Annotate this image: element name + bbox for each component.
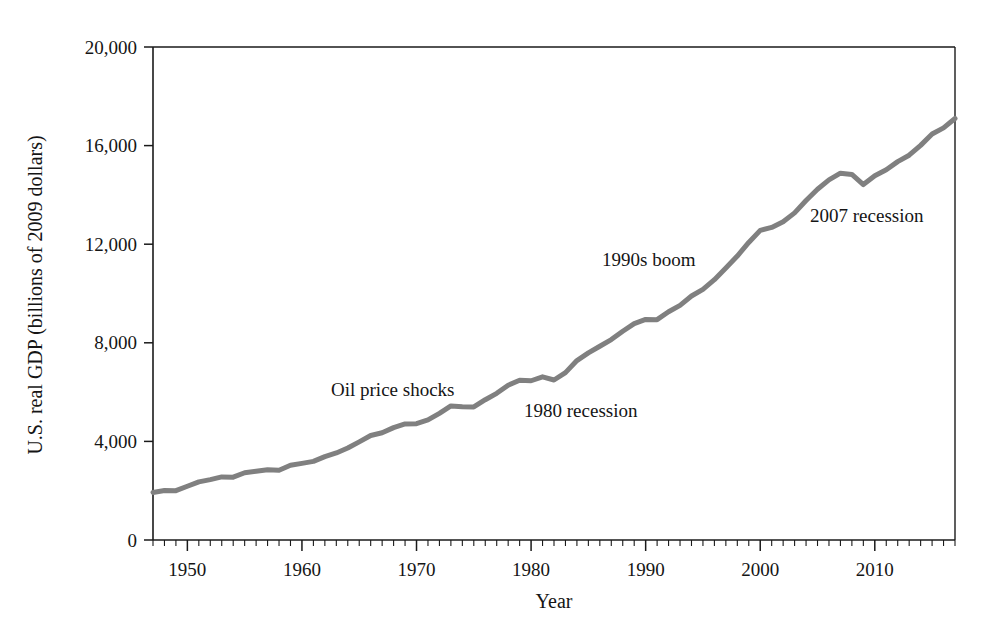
y-tick-label-16000: 16,000 bbox=[85, 135, 137, 156]
x-axis-title: Year bbox=[536, 590, 573, 612]
y-axis-title: U.S. real GDP (billions of 2009 dollars) bbox=[24, 135, 47, 454]
chart-figure: 04,0008,00012,00016,00020,000 1950196019… bbox=[0, 0, 987, 643]
y-tick-label-0: 0 bbox=[128, 530, 138, 551]
x-tick-label-1950: 1950 bbox=[168, 559, 206, 580]
chart-annotations: Oil price shocks1980 recession1990s boom… bbox=[331, 205, 924, 421]
x-tick-label-1960: 1960 bbox=[283, 559, 321, 580]
annotation-recession-1980: 1980 recession bbox=[524, 400, 638, 421]
y-axis-ticks bbox=[144, 47, 153, 540]
x-tick-label-1980: 1980 bbox=[512, 559, 550, 580]
y-axis-tick-labels: 04,0008,00012,00016,00020,000 bbox=[85, 37, 137, 551]
x-tick-label-1970: 1970 bbox=[398, 559, 436, 580]
gdp-line-chart: 04,0008,00012,00016,00020,000 1950196019… bbox=[0, 0, 987, 643]
y-tick-label-8000: 8,000 bbox=[94, 332, 137, 353]
y-tick-label-12000: 12,000 bbox=[85, 234, 137, 255]
x-axis-minor-ticks bbox=[153, 540, 955, 546]
x-tick-label-2000: 2000 bbox=[741, 559, 779, 580]
x-tick-label-2010: 2010 bbox=[856, 559, 894, 580]
annotation-boom-1990s: 1990s boom bbox=[602, 249, 696, 270]
x-tick-label-1990: 1990 bbox=[627, 559, 665, 580]
y-tick-label-20000: 20,000 bbox=[85, 37, 137, 58]
x-axis-tick-labels: 1950196019701980199020002010 bbox=[168, 559, 893, 580]
annotation-oil-price-shocks: Oil price shocks bbox=[331, 379, 454, 400]
y-tick-label-4000: 4,000 bbox=[94, 431, 137, 452]
annotation-recession-2007: 2007 recession bbox=[810, 205, 924, 226]
series-line-us-real-gdp bbox=[153, 118, 955, 492]
